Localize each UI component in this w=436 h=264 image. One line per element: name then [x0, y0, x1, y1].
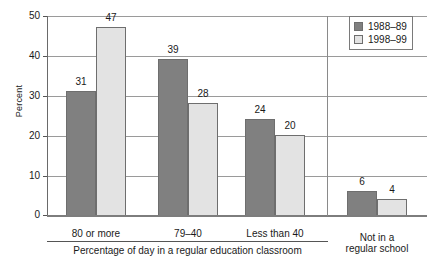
category-label-less-than-40: Less than 40 [230, 228, 320, 239]
legend-label-1988-89: 1988–89 [368, 21, 407, 32]
y-tick-label-50: 50 [18, 11, 40, 21]
bar-g0-s0 [66, 91, 96, 216]
category-label-line2: regular school [332, 243, 422, 254]
x-axis-baseline [47, 215, 427, 217]
legend-swatch-icon-1988-89 [354, 22, 363, 31]
x-axis-title: Percentage of day in a regular education… [47, 245, 328, 257]
bar-g2-s0 [245, 119, 275, 216]
legend-swatch-icon-1998-99 [354, 35, 363, 44]
bar-value-g1-s1: 28 [188, 89, 218, 99]
y-tick-label-0: 0 [18, 210, 40, 220]
bar-g2-s1 [275, 135, 305, 216]
bar-chart: Percent 50 40 30 20 10 0 31 47 39 28 24 … [0, 0, 436, 264]
bar-g1-s1 [188, 103, 218, 216]
category-label-line1: Not in a [332, 232, 422, 243]
bar-value-g2-s1: 20 [275, 121, 305, 131]
category-label-80-or-more: 80 or more [51, 228, 141, 239]
y-tick-label-30: 30 [18, 91, 40, 101]
bar-g1-s0 [158, 59, 188, 216]
y-tick-mark-20 [43, 136, 47, 137]
legend: 1988–89 1998–99 [349, 16, 413, 50]
legend-item-1988-89: 1988–89 [354, 20, 407, 33]
bar-g3-s1 [377, 199, 407, 216]
bar-value-g2-s0: 24 [245, 105, 275, 115]
category-label-79-40: 79–40 [143, 228, 233, 239]
y-axis-line [47, 16, 48, 216]
x-axis-bracket-line [47, 241, 328, 242]
y-tick-mark-10 [43, 176, 47, 177]
legend-label-1998-99: 1998–99 [368, 34, 407, 45]
bar-value-g3-s1: 4 [377, 185, 407, 195]
y-tick-mark-50 [43, 16, 47, 17]
bar-value-g0-s1: 47 [96, 13, 126, 23]
category-label-not-in-regular-school: Not in a regular school [332, 232, 422, 254]
bar-value-g3-s0: 6 [347, 177, 377, 187]
y-tick-mark-40 [43, 56, 47, 57]
y-tick-label-40: 40 [18, 51, 40, 61]
group-divider-line [327, 16, 328, 216]
y-tick-label-20: 20 [18, 131, 40, 141]
y-tick-mark-30 [43, 96, 47, 97]
legend-item-1998-99: 1998–99 [354, 33, 407, 46]
bar-value-g1-s0: 39 [158, 45, 188, 55]
bar-value-g0-s0: 31 [66, 77, 96, 87]
bar-g3-s0 [347, 191, 377, 216]
y-tick-label-10: 10 [18, 171, 40, 181]
bar-g0-s1 [96, 27, 126, 216]
